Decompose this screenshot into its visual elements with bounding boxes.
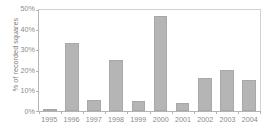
- bar-2002: [198, 78, 212, 111]
- bar-slot: [127, 10, 149, 111]
- x-axis-tick-label: 2003: [220, 116, 236, 123]
- x-axis-tick-mark: [83, 111, 84, 114]
- bar-2003: [220, 70, 234, 111]
- x-axis-tick-mark: [150, 111, 151, 114]
- x-axis-tick-mark: [238, 111, 239, 114]
- x-axis-tick-mark: [172, 111, 173, 114]
- x-axis-tick-label: 1995: [41, 116, 57, 123]
- bar-slot: [150, 10, 172, 111]
- bar-2000: [154, 16, 168, 111]
- bar-1999: [132, 101, 146, 111]
- x-axis-tick-mark: [194, 111, 195, 114]
- bar-slot: [238, 10, 260, 111]
- bar-chart: % of recorded squares 0%10%20%30%40%50% …: [0, 0, 266, 132]
- bar-1998: [109, 60, 123, 111]
- x-axis-tick-labels: 1995199619971998199920002001200220032004: [38, 116, 261, 128]
- y-axis-tick-label: 30%: [14, 47, 35, 54]
- bar-1997: [87, 100, 101, 111]
- bars-container: [39, 10, 260, 111]
- x-axis-tick-mark: [105, 111, 106, 114]
- bar-2004: [242, 80, 256, 111]
- bar-slot: [194, 10, 216, 111]
- x-axis-tick-label: 1997: [86, 116, 102, 123]
- y-axis-tick-label: 50%: [14, 5, 35, 12]
- bar-slot: [61, 10, 83, 111]
- x-axis-tick-label: 1996: [63, 116, 79, 123]
- plot-area: [38, 9, 261, 112]
- x-axis-tick-label: 1999: [130, 116, 146, 123]
- x-axis-tick-label: 2004: [242, 116, 258, 123]
- bar-slot: [83, 10, 105, 111]
- x-axis-tick-mark: [260, 111, 261, 114]
- bar-slot: [216, 10, 238, 111]
- y-axis-tick-labels: 0%10%20%30%40%50%: [14, 9, 35, 112]
- x-axis-tick-mark: [127, 111, 128, 114]
- x-axis-tick-label: 1998: [108, 116, 124, 123]
- bar-slot: [172, 10, 194, 111]
- bar-slot: [39, 10, 61, 111]
- bar-slot: [105, 10, 127, 111]
- x-axis-tick-mark: [61, 111, 62, 114]
- bar-2001: [176, 103, 190, 111]
- y-axis-tick-label: 40%: [14, 26, 35, 33]
- bar-1995: [43, 109, 57, 111]
- y-axis-tick-label: 10%: [14, 88, 35, 95]
- x-axis-tick-mark: [216, 111, 217, 114]
- y-axis-tick-label: 0%: [14, 108, 35, 115]
- x-axis-tick-label: 2000: [153, 116, 169, 123]
- x-axis-tick-label: 2001: [175, 116, 191, 123]
- y-axis-tick-label: 20%: [14, 67, 35, 74]
- x-axis-tick-mark: [39, 111, 40, 114]
- x-axis-tick-label: 2002: [197, 116, 213, 123]
- bar-1996: [65, 43, 79, 111]
